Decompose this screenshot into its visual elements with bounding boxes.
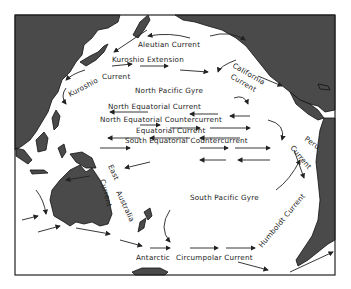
label-equatorial-current: Equatorial Current [136,126,206,135]
label-antarctic-circumpolar-b: Circumpolar Current [176,253,253,262]
label-north-equatorial-countercurrent: North Equatorial Countercurrent [100,115,222,124]
label-south-pacific-gyre: South Pacific Gyre [190,193,259,202]
label-aleutian-current: Aleutian Current [138,40,200,49]
label-kuroshio-current-b: Current [102,72,130,81]
label-antarctic-circumpolar-a: Antarctic [136,253,170,262]
landmass-java [30,170,48,174]
label-kuroshio-extension: Kuroshio Extension [112,55,184,64]
label-south-equatorial-countercurrent: South Equatorial Countercurrent [125,136,248,145]
pacific-currents-map: Aleutian Current Kuroshio Extension Curr… [0,0,351,289]
label-north-pacific-gyre: North Pacific Gyre [135,86,204,95]
label-north-equatorial-current: North Equatorial Current [108,102,201,111]
